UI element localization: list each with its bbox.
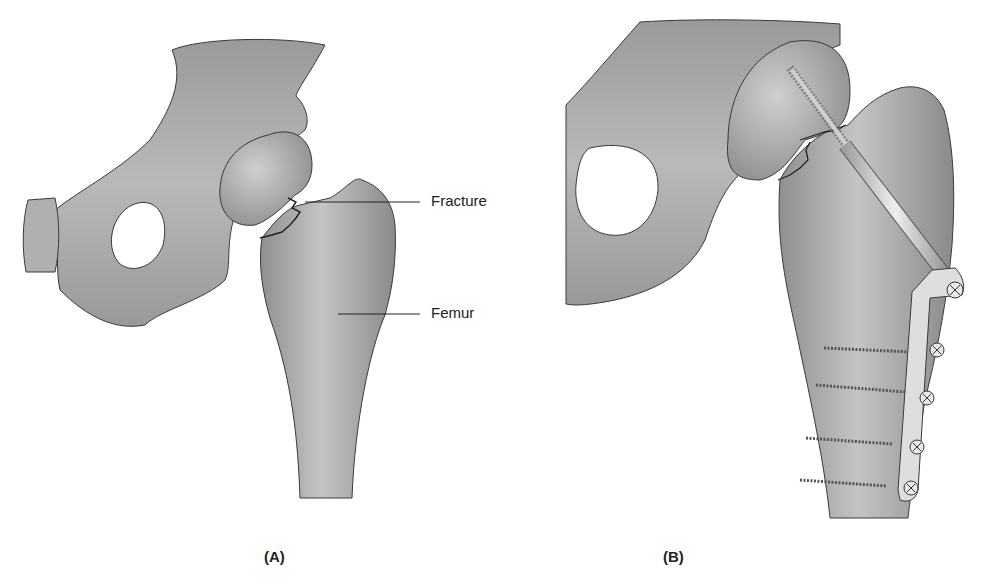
panel-a xyxy=(23,39,420,498)
panel-b xyxy=(566,20,964,518)
screw-head-5 xyxy=(904,481,918,495)
femur-label: Femur xyxy=(431,304,474,321)
obturator-foramen-b xyxy=(576,145,658,235)
screw-head-4 xyxy=(910,440,924,454)
pubic-bone-a xyxy=(23,198,59,272)
panel-a-label: (A) xyxy=(264,548,285,565)
hip-fracture-illustration xyxy=(0,0,984,584)
panel-b-label: (B) xyxy=(663,548,684,565)
screw-head-2 xyxy=(930,343,944,357)
fracture-label: Fracture xyxy=(431,192,487,209)
screw-head-3 xyxy=(920,391,934,405)
screw-head-1 xyxy=(947,282,963,298)
femur-a xyxy=(260,179,395,498)
